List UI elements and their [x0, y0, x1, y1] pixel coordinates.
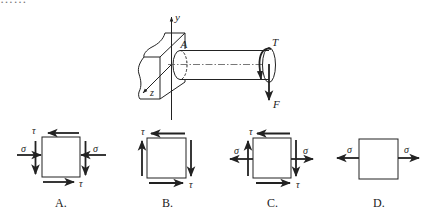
sigma-label: σ [347, 144, 353, 155]
stress-element-a [42, 137, 80, 177]
stress-element-c [253, 138, 291, 178]
tau-label: τ [32, 125, 36, 136]
tau-label: τ [79, 178, 83, 189]
sigma-label: σ [303, 145, 309, 156]
option-c[interactable]: τ σ σ τ C. [230, 126, 313, 210]
figure-canvas: y [0, 0, 436, 220]
force-label: F [272, 98, 280, 110]
fixed-wall-block [138, 33, 185, 99]
tau-label: τ [141, 126, 145, 137]
option-c-label: C. [267, 196, 278, 210]
torque-label: T [272, 36, 279, 48]
sigma-label: σ [404, 144, 410, 155]
option-b-label: B. [162, 196, 173, 210]
y-axis-label: y [174, 11, 180, 23]
main-figure: y [138, 11, 280, 120]
stress-element-b [147, 138, 186, 178]
option-a[interactable]: τ τ σ σ A. [17, 125, 106, 210]
sigma-label: σ [21, 143, 27, 154]
sigma-label: σ [234, 145, 240, 156]
tau-label: τ [189, 179, 193, 190]
sigma-label: σ [93, 143, 99, 154]
stress-element-d [359, 139, 398, 179]
z-axis: z [143, 65, 172, 99]
z-axis-label: z [149, 87, 154, 98]
tau-label: τ [296, 179, 300, 190]
tau-label: τ [249, 126, 253, 137]
option-d[interactable]: σ σ D. [337, 139, 419, 210]
force-arrow: F [269, 64, 280, 110]
point-a-label: A [180, 38, 188, 50]
option-d-label: D. [373, 196, 385, 210]
option-b[interactable]: τ τ B. [141, 126, 193, 210]
option-a-label: A. [55, 196, 67, 210]
